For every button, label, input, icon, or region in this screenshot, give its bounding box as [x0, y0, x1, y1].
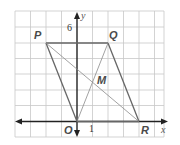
point-label-P: P [34, 29, 42, 41]
x-axis-arrow-left-icon [15, 119, 22, 125]
point-label-M: M [97, 74, 107, 86]
x-axis-label: x [160, 124, 166, 135]
y-tick-label: 6 [67, 22, 72, 33]
y-axis-arrow-down-icon [74, 130, 80, 137]
point-label-Q: Q [109, 29, 118, 41]
coordinate-plane: 6 y 1 x P Q O R M [0, 0, 180, 145]
y-axis-arrow-up-icon [74, 12, 80, 19]
point-label-R: R [141, 124, 149, 136]
point-label-O: O [64, 124, 73, 136]
y-axis-label: y [80, 10, 86, 21]
x-tick-label: 1 [89, 123, 94, 134]
